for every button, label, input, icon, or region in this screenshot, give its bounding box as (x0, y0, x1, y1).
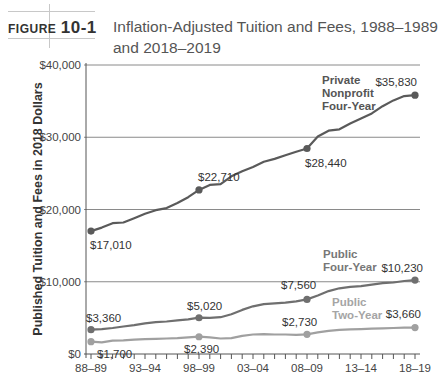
x-tick-label: 03–04 (237, 362, 270, 374)
data-point-label: $10,230 (381, 262, 423, 274)
series-annotation: Four-Year (323, 261, 377, 273)
x-tick-label: 98–99 (183, 362, 215, 374)
data-point-label: $35,830 (375, 76, 417, 88)
line-chart: $0$10,000$20,000$30,000$40,00088–8993–94… (0, 0, 443, 385)
series-annotation: Public (323, 248, 358, 260)
data-point-marker (411, 92, 418, 99)
data-point-marker (87, 338, 94, 345)
data-point-label: $22,710 (198, 171, 240, 183)
series-line (91, 328, 415, 343)
data-point-label: $3,660 (386, 308, 421, 320)
y-axis-label: Published Tuition and Fees in 2018 Dolla… (31, 82, 45, 335)
data-point-marker (195, 333, 202, 340)
x-tick-label: 08–09 (291, 362, 323, 374)
data-point-marker (87, 326, 94, 333)
x-tick-label: 18–19 (399, 362, 431, 374)
series-annotation: Four-Year (322, 100, 376, 112)
y-tick-label: $10,000 (39, 276, 81, 288)
data-point-marker (303, 296, 310, 303)
series-annotation: Private (322, 74, 360, 86)
data-point-marker (195, 314, 202, 321)
data-point-label: $28,440 (305, 157, 347, 169)
series-annotation: Nonprofit (322, 87, 374, 99)
data-point-label: $2,730 (282, 316, 317, 328)
data-point-label: $2,390 (184, 343, 219, 355)
y-tick-label: $30,000 (39, 131, 81, 143)
series-annotation: Public (332, 296, 367, 308)
data-point-marker (411, 324, 418, 331)
data-point-label: $1,700 (97, 348, 132, 360)
x-tick-label: 13–14 (345, 362, 378, 374)
series-line (91, 95, 415, 231)
data-point-label: $7,560 (281, 279, 316, 291)
data-point-label: $17,010 (90, 239, 132, 251)
data-point-label: $5,020 (187, 300, 222, 312)
y-tick-label: $20,000 (39, 204, 81, 216)
x-tick-label: 93–94 (129, 362, 162, 374)
y-tick-label: $40,000 (39, 59, 81, 71)
data-point-marker (303, 145, 310, 152)
y-tick-label: $0 (68, 348, 81, 360)
data-point-marker (411, 276, 418, 283)
data-point-marker (303, 331, 310, 338)
data-point-marker (195, 186, 202, 193)
x-tick-label: 88–89 (75, 362, 107, 374)
data-point-label: $3,360 (86, 312, 121, 324)
data-point-marker (87, 228, 94, 235)
series-annotation: Two-Year (332, 309, 383, 321)
